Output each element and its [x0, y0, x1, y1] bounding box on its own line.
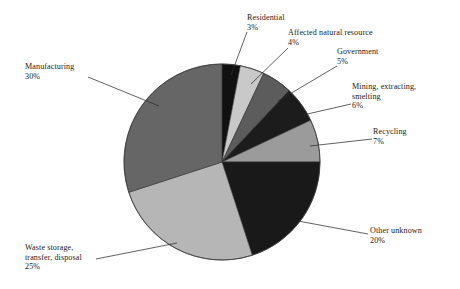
label-waste-percent: 25%	[25, 262, 82, 272]
leader-line-waste-storage	[96, 243, 177, 259]
label-government-percent: 5%	[337, 57, 378, 67]
label-waste-text-line2: transfer, disposal	[25, 253, 82, 263]
label-affected-text: Affected natural resource	[288, 28, 373, 38]
label-manufacturing-percent: 30%	[25, 72, 74, 82]
label-manufacturing: Manufacturing 30%	[25, 62, 74, 81]
label-residential-percent: 3%	[247, 23, 285, 33]
label-recycling: Recycling 7%	[373, 127, 407, 146]
label-government-text: Government	[337, 47, 378, 57]
leader-line-manufacturing	[88, 77, 159, 106]
label-other-unknown-text: Other unknown	[370, 226, 422, 236]
leader-line-mining	[303, 104, 351, 115]
label-government: Government 5%	[337, 47, 378, 66]
label-mining-extracting-smelting: Mining, extracting, smelting 6%	[352, 82, 416, 111]
label-waste-text-line1: Waste storage,	[25, 243, 82, 253]
leader-line-recycling	[310, 139, 372, 146]
label-other-unknown: Other unknown 20%	[370, 226, 422, 245]
label-recycling-text: Recycling	[373, 127, 407, 137]
label-mining-percent: 6%	[352, 101, 416, 111]
label-affected-natural-resource: Affected natural resource 4%	[288, 28, 373, 47]
label-mining-text-line2: smelting	[352, 92, 416, 102]
label-mining-text-line1: Mining, extracting,	[352, 82, 416, 92]
label-recycling-percent: 7%	[373, 137, 407, 147]
label-residential: Residential 3%	[247, 13, 285, 32]
label-manufacturing-text: Manufacturing	[25, 62, 74, 72]
leader-line-government	[278, 66, 337, 101]
label-residential-text: Residential	[247, 13, 285, 23]
leader-line-other-unknown	[298, 221, 368, 234]
label-affected-percent: 4%	[288, 38, 373, 48]
label-other-unknown-percent: 20%	[370, 236, 422, 246]
label-waste-storage-transfer-disposal: Waste storage, transfer, disposal 25%	[25, 243, 82, 272]
pie-chart-page: Residential 3% Affected natural resource…	[0, 0, 460, 289]
